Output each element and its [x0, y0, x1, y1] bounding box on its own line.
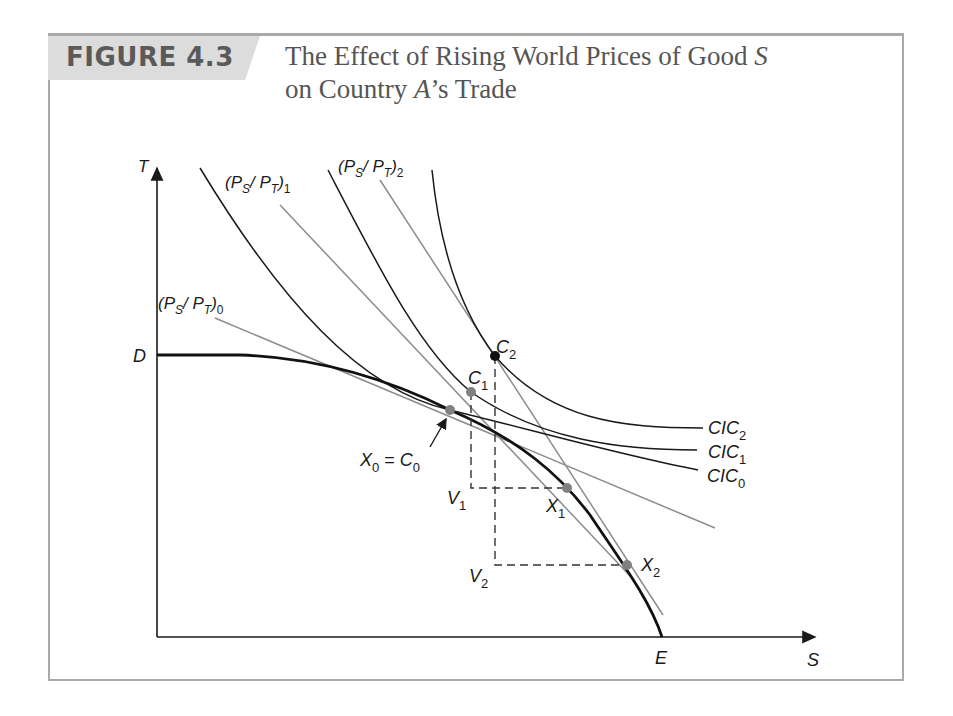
point-x2: [622, 560, 632, 570]
x0-c0-label: X0 = C0: [359, 450, 420, 475]
point-x1: [562, 483, 572, 493]
price-line-1: [280, 205, 630, 576]
price-line-2-label: (PS/ PT)2: [338, 157, 404, 180]
x2-label: X2: [640, 555, 660, 580]
v2-label: V2: [469, 566, 488, 591]
v1-label: V1: [447, 488, 466, 513]
d-intercept-label: D: [133, 346, 146, 366]
x0-pointer-arrow: [430, 419, 446, 447]
e-intercept-label: E: [655, 648, 668, 668]
cic-0-curve: [200, 168, 698, 470]
cic-0-label: CIC0: [707, 466, 745, 491]
x-axis-label: S: [807, 650, 819, 670]
price-line-1-label: (PS/ PT)1: [225, 173, 291, 196]
cic-2-label: CIC2: [708, 418, 746, 443]
point-x0-c0: [445, 405, 455, 415]
x1-label: X1: [545, 496, 565, 521]
trade-diagram: T S D E (PS/ PT)0 (PS/ PT)1 (PS/ PT)2 CI…: [0, 0, 953, 716]
point-c1: [466, 387, 476, 397]
y-axis-label: T: [138, 157, 150, 176]
cic-1-label: CIC1: [708, 442, 746, 467]
price-line-0: [215, 318, 715, 528]
cic-1-curve: [328, 170, 697, 450]
price-line-0-label: (PS/ PT)0: [158, 294, 224, 317]
